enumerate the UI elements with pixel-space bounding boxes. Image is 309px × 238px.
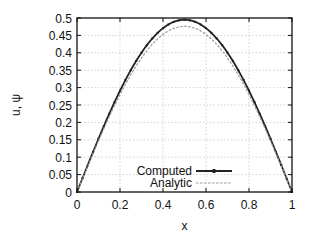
- y-axis-label: u, ψ: [9, 94, 23, 116]
- x-tick-label: 0.4: [155, 198, 172, 212]
- data-point-marker: [178, 19, 180, 21]
- data-point-marker: [216, 38, 218, 40]
- data-point-marker: [124, 79, 126, 81]
- y-tick-label: 0.15: [49, 133, 73, 147]
- data-point-marker: [227, 52, 229, 54]
- data-point-marker: [200, 23, 202, 25]
- x-tick-label: 0.2: [112, 198, 129, 212]
- y-tick-label: 0.35: [49, 64, 73, 78]
- chart: 00.20.40.60.8100.050.10.150.20.250.30.35…: [0, 0, 309, 238]
- x-tick-label: 1: [289, 198, 296, 212]
- data-point-marker: [253, 101, 255, 103]
- y-tick-label: 0.3: [55, 81, 72, 95]
- data-point-marker: [221, 44, 223, 46]
- data-point-marker: [130, 69, 132, 71]
- data-point-marker: [205, 27, 207, 29]
- y-tick-label: 0.45: [49, 29, 73, 43]
- y-tick-label: 0.25: [49, 99, 73, 113]
- data-point-marker: [151, 38, 153, 40]
- x-axis-label: x: [182, 219, 188, 233]
- x-tick-label: 0: [74, 198, 81, 212]
- y-tick-label: 0.1: [55, 151, 72, 165]
- data-point-marker: [237, 69, 239, 71]
- data-point-marker: [141, 52, 143, 54]
- data-point-marker: [162, 27, 164, 29]
- data-point-marker: [173, 21, 175, 23]
- y-tick-label: 0.05: [49, 168, 73, 182]
- x-tick-label: 0.6: [198, 198, 215, 212]
- legend-marker: [213, 169, 216, 173]
- legend: ComputedAnalytic: [137, 164, 232, 190]
- data-point-marker: [194, 21, 196, 23]
- y-tick-label: 0.4: [55, 46, 72, 60]
- legend-label-analytic: Analytic: [150, 176, 192, 190]
- data-point-marker: [189, 19, 191, 21]
- y-tick-label: 0: [65, 186, 72, 200]
- data-point-marker: [135, 60, 137, 62]
- data-point-marker: [248, 90, 250, 92]
- data-point-marker: [210, 32, 212, 34]
- y-tick-label: 0.2: [55, 116, 72, 130]
- data-point-marker: [243, 79, 245, 81]
- y-tick-label: 0.5: [55, 12, 72, 26]
- data-point-marker: [157, 32, 159, 34]
- data-point-marker: [146, 44, 148, 46]
- data-point-marker: [167, 23, 169, 25]
- data-point-marker: [232, 60, 234, 62]
- data-point-marker: [119, 90, 121, 92]
- data-point-marker: [103, 125, 105, 127]
- data-point-marker: [184, 19, 186, 21]
- x-tick-label: 0.8: [241, 198, 258, 212]
